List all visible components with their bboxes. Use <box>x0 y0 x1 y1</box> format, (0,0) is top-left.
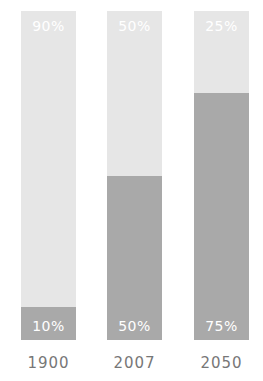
bar-2007: 50% 50% <box>107 11 162 340</box>
year-label: 2050 <box>194 354 249 372</box>
top-percent-label: 50% <box>107 18 162 34</box>
bar-fill-2007 <box>107 176 162 341</box>
bottom-percent-label: 50% <box>107 318 162 334</box>
bottom-percent-label: 75% <box>194 318 249 334</box>
bar-fill-2050 <box>194 93 249 340</box>
bar-1900: 90% 10% <box>21 11 76 340</box>
year-label: 2007 <box>107 354 162 372</box>
top-percent-label: 25% <box>194 18 249 34</box>
bar-2050: 25% 75% <box>194 11 249 340</box>
top-percent-label: 90% <box>21 18 76 34</box>
cropped-title-fragment <box>0 0 90 5</box>
year-label: 1900 <box>21 354 76 372</box>
bottom-percent-label: 10% <box>21 318 76 334</box>
